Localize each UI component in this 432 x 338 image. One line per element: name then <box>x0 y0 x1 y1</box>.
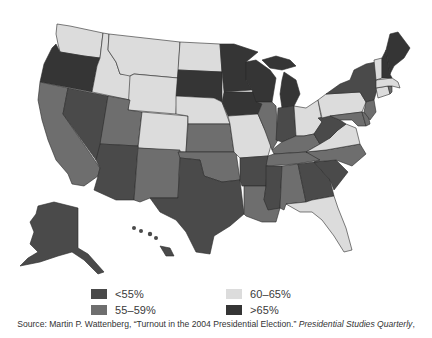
state-hi-island <box>148 232 152 236</box>
state-hi-island <box>132 226 136 230</box>
us-turnout-map <box>0 0 432 280</box>
legend-label: 55–59% <box>115 304 156 316</box>
legend-item-under-55: <55% <box>91 287 144 301</box>
state-in <box>276 106 296 142</box>
source-suffix: , <box>412 319 414 329</box>
state-ms <box>264 166 282 210</box>
source-journal: Presidential Studies Quarterly <box>299 319 413 329</box>
legend-label: <55% <box>115 288 144 300</box>
state-az <box>94 144 138 200</box>
state-mi <box>280 72 300 108</box>
legend-label: >65% <box>250 304 279 316</box>
state-ar <box>240 156 268 186</box>
legend-swatch <box>226 305 242 315</box>
legend-swatch <box>91 305 107 315</box>
legend-item-55-59: 55–59% <box>91 303 156 317</box>
legend: <55% 55–59% 60–65% >65% <box>0 284 432 320</box>
state-ak <box>20 202 104 274</box>
state-hi <box>160 246 174 256</box>
legend-item-60-65: 60–65% <box>226 287 291 301</box>
state-wy <box>128 74 178 114</box>
state-nd <box>178 42 222 72</box>
state-fl <box>286 196 352 252</box>
state-hi-island <box>139 229 143 233</box>
legend-item-over-65: >65% <box>226 303 279 317</box>
state-me <box>386 32 410 74</box>
state-ks <box>186 124 234 152</box>
source-text: Source: Martin P. Wattenberg, “Turnout i… <box>17 319 299 329</box>
state-co <box>138 112 188 152</box>
state-hi-island <box>154 236 158 240</box>
legend-swatch <box>91 289 107 299</box>
source-citation: Source: Martin P. Wattenberg, “Turnout i… <box>0 319 432 329</box>
legend-swatch <box>226 289 242 299</box>
legend-label: 60–65% <box>250 288 291 300</box>
state-nm <box>134 148 180 202</box>
